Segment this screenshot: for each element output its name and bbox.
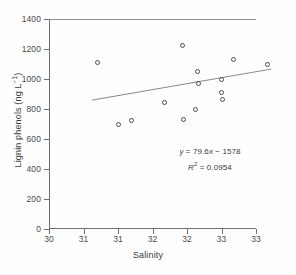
scatter-chart-figure: 0200400600800100012001400 30313132323333…	[0, 0, 296, 275]
y-axis-title: Lignin phenols (ng L−1)	[11, 40, 23, 200]
x-axis-title: Salinity	[0, 250, 296, 260]
data-point	[265, 62, 270, 67]
x-axis-tick-label: 32	[138, 235, 168, 244]
y-axis-tick-label: 1400	[0, 15, 41, 24]
trendline	[49, 19, 256, 229]
data-point	[116, 122, 121, 127]
x-axis-tick-label: 33	[241, 235, 271, 244]
data-point	[95, 60, 100, 65]
y-axis-title-exponent: −1	[11, 76, 18, 84]
regression-annotation: y = 79.6x − 1578 R2 = 0.0954	[150, 146, 270, 174]
y-axis-title-tail: )	[13, 73, 23, 76]
r-squared-number: = 0.0954	[197, 163, 232, 172]
x-axis-tick-label: 33	[207, 235, 237, 244]
y-axis-tick-label: 0	[0, 225, 41, 234]
data-point	[180, 43, 185, 48]
regression-equation: y = 79.6x − 1578	[150, 146, 270, 158]
scan-artifact-strip	[0, 266, 296, 275]
y-axis-title-main: Lignin phenols (ng L	[13, 83, 23, 167]
data-point	[195, 69, 200, 74]
equation-body: = 79.6	[183, 147, 208, 156]
x-axis-tick-label: 31	[103, 235, 133, 244]
x-axis-tick-label: 32	[172, 235, 202, 244]
r-squared-value: R2 = 0.0954	[150, 158, 270, 174]
equation-rest: − 1578	[213, 147, 241, 156]
x-axis-tick-label: 31	[69, 235, 99, 244]
x-axis-tick-label: 30	[34, 235, 64, 244]
